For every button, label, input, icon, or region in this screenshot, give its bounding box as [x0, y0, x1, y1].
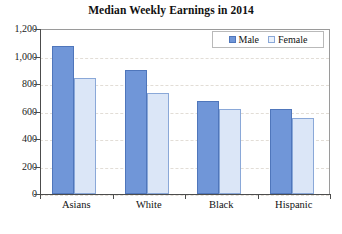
x-axis-tick-mark	[258, 194, 259, 199]
y-axis-tick-label: 200	[3, 162, 37, 172]
x-axis-tick-mark	[185, 194, 186, 199]
x-axis-tick-mark	[330, 194, 331, 199]
bar-hispanic-female	[292, 118, 314, 194]
bar-white-male	[125, 70, 147, 194]
gridline	[40, 58, 329, 59]
y-axis-tick-label: 400	[3, 134, 37, 144]
bar-hispanic-male	[270, 109, 292, 194]
y-axis-tick-mark	[34, 167, 40, 168]
male-swatch-icon	[229, 36, 236, 43]
bar-asians-female	[74, 78, 96, 194]
x-axis-label-white: White	[113, 199, 186, 211]
x-axis-tick-mark	[40, 194, 41, 199]
y-axis-tick-label: 600	[3, 107, 37, 117]
female-swatch-icon	[268, 36, 275, 43]
x-axis-label-black: Black	[185, 199, 258, 211]
plot-area	[40, 29, 330, 194]
x-axis-label-asians: Asians	[40, 199, 113, 211]
y-axis-tick-label: 1,000	[3, 52, 37, 62]
chart-legend: Male Female	[212, 31, 324, 48]
legend-item-female: Female	[268, 35, 307, 45]
chart-title: Median Weekly Earnings in 2014	[0, 4, 342, 16]
legend-label-female: Female	[278, 35, 307, 45]
x-axis-label-hispanic: Hispanic	[258, 199, 331, 211]
y-axis-tick-label: 0	[3, 189, 37, 199]
y-axis-line	[40, 29, 41, 194]
bar-black-female	[219, 109, 241, 194]
bar-asians-male	[52, 46, 74, 195]
chart-container: Median Weekly Earnings in 2014 Male Fema…	[0, 0, 342, 234]
y-axis-tick-mark	[34, 112, 40, 113]
y-axis-tick-mark	[34, 139, 40, 140]
y-axis-tick-mark	[34, 29, 40, 30]
y-axis-tick-label: 1,200	[3, 24, 37, 34]
bar-white-female	[147, 93, 169, 194]
legend-label-male: Male	[239, 35, 260, 45]
y-axis-tick-mark	[34, 84, 40, 85]
legend-item-male: Male	[229, 35, 260, 45]
y-axis-tick-mark	[34, 57, 40, 58]
y-axis-tick-label: 800	[3, 79, 37, 89]
bar-black-male	[197, 101, 219, 195]
x-axis-tick-mark	[113, 194, 114, 199]
